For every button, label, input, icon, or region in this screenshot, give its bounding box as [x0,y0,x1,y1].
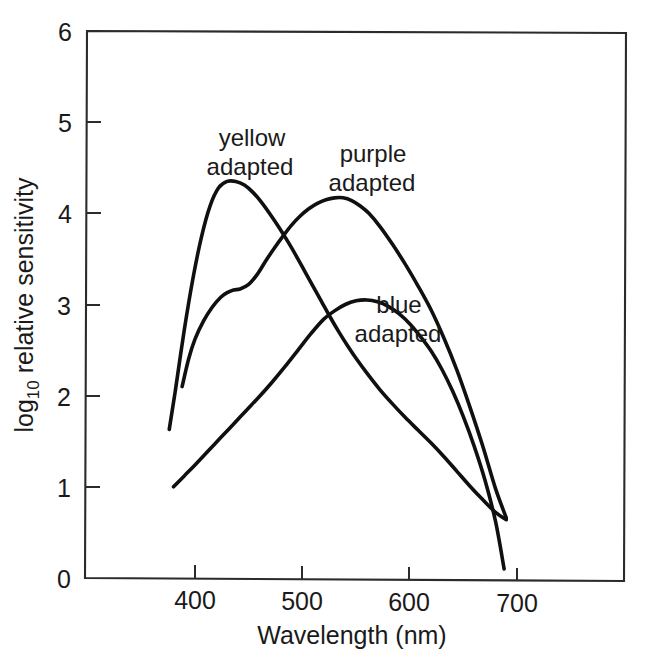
y-axis-title-base: log [10,399,38,432]
y-tick-label-3: 3 [57,292,71,320]
label-yellow-adapted-line1: yellow [219,124,286,151]
chart-background [0,0,648,657]
label-blue-adapted-line2: adapted [355,320,442,347]
x-tick-label-500: 500 [281,587,323,615]
y-tick-label-5: 5 [58,109,72,137]
label-blue-adapted-line1: blue [376,291,421,318]
x-tick-label-700: 700 [496,589,538,617]
x-axis-title-text: Wavelength (nm) [257,621,446,649]
y-tick-label-4: 4 [58,200,72,228]
label-purple-adapted-line1: purple [340,140,407,167]
y-axis-title-subscript: 10 [24,380,43,399]
y-axis-title-rest: relative sensitivity [10,177,38,380]
x-axis-title: Wavelength (nm) [257,621,446,649]
x-tick-label-600: 600 [388,588,430,616]
y-tick-label-1: 1 [57,474,71,502]
y-tick-label-2: 2 [57,383,71,411]
y-tick-label-0: 0 [57,565,71,593]
spectral-sensitivity-chart: 6 5 4 3 2 1 0 400 500 600 700 Wavelength… [0,0,648,657]
label-yellow-adapted-line2: adapted [207,153,294,180]
label-purple-adapted-line2: adapted [329,169,416,196]
x-tick-label-400: 400 [174,586,216,614]
chart-figure: 6 5 4 3 2 1 0 400 500 600 700 Wavelength… [0,0,648,657]
y-tick-label-6: 6 [58,18,72,46]
